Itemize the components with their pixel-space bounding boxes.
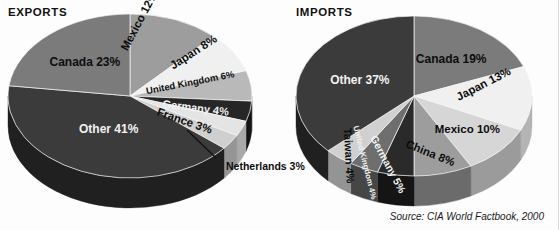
pie-slice-canada [9,14,130,96]
source-note: Source: CIA World Factbook, 2000 [390,211,544,222]
figure-canvas: EXPORTS IMPORTS Mexico 12%Japan 8%United… [0,0,559,230]
exports-pie-chart: Mexico 12%Japan 8%United Kingdom 6%Germa… [2,12,264,222]
imports-pie-graphic [290,12,552,222]
imports-pie-chart: Canada 19%Japan 13%Mexico 10%China 8%Ger… [290,12,552,222]
exports-pie-graphic [2,12,264,222]
